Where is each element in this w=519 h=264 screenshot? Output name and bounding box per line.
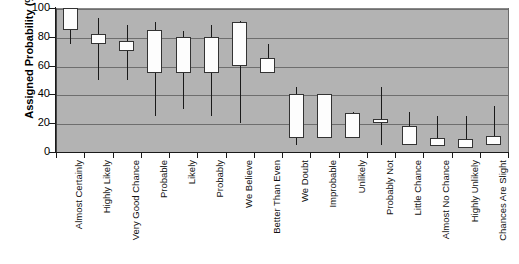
y-tick-mark-40 [49, 94, 55, 95]
x-tick-mark [56, 153, 57, 158]
y-tick-mark-60 [49, 66, 55, 67]
whisker-upper [211, 25, 212, 37]
x-tick-mark [282, 153, 283, 158]
box-rect [373, 119, 388, 123]
y-tick-mark-20 [49, 123, 55, 124]
x-category-label: Highly Likely [102, 160, 112, 213]
box-rect [119, 41, 134, 51]
x-category-label: Almost Certainly [74, 160, 84, 229]
box-rect [402, 126, 417, 145]
box-plot-chart: Assigned Probability (%) 020406080100 Al… [0, 0, 519, 264]
x-category-label: Little Chance [413, 160, 423, 215]
y-tick-label-40: 40 [24, 88, 50, 99]
box-rect [232, 22, 247, 65]
whisker-upper [494, 106, 495, 136]
x-tick-mark [367, 153, 368, 158]
whisker-lower [70, 30, 71, 44]
gridline-100 [57, 9, 509, 10]
box-rect [204, 37, 219, 73]
box-rect [486, 136, 501, 145]
x-category-label: We Doubt [300, 160, 310, 202]
box-rect [289, 94, 304, 137]
x-axis-line [49, 152, 509, 153]
whisker-lower [98, 44, 99, 80]
x-tick-mark [480, 153, 481, 158]
box-rect [147, 30, 162, 73]
whisker-lower [183, 73, 184, 109]
whisker-upper [155, 22, 156, 29]
x-tick-mark [169, 153, 170, 158]
x-category-label: Probably [215, 160, 225, 198]
whisker-upper [127, 25, 128, 41]
whisker-lower [296, 138, 297, 145]
y-tick-label-60: 60 [24, 60, 50, 71]
y-axis-line [55, 7, 56, 153]
x-tick-mark [254, 153, 255, 158]
x-tick-mark [423, 153, 424, 158]
x-category-label: Better Than Even [272, 160, 282, 234]
y-tick-label-80: 80 [24, 31, 50, 42]
x-tick-mark [339, 153, 340, 158]
x-category-label: Probably Not [385, 160, 395, 215]
whisker-lower [240, 66, 241, 124]
x-tick-mark [395, 153, 396, 158]
whisker-lower [127, 51, 128, 80]
box-rect [430, 138, 445, 147]
x-tick-mark [113, 153, 114, 158]
y-axis-tick-labels: 020406080100 [22, 0, 50, 160]
whisker-upper [98, 18, 99, 34]
x-tick-mark [452, 153, 453, 158]
plot-right-border [508, 8, 509, 153]
box-rect [458, 139, 473, 148]
box-rect [176, 37, 191, 73]
whisker-lower [155, 73, 156, 116]
whisker-upper [296, 87, 297, 94]
whisker-upper [409, 112, 410, 126]
x-category-label: Chances Are Slight [498, 160, 508, 241]
y-tick-label-100: 100 [24, 2, 50, 13]
plot-area [56, 8, 509, 153]
x-category-label: Very Good Chance [131, 160, 141, 240]
box-rect [91, 34, 106, 44]
whisker-upper [466, 116, 467, 139]
whisker-upper [268, 44, 269, 58]
x-category-label: Improbable [328, 160, 338, 208]
y-tick-mark-0 [49, 152, 55, 153]
x-tick-mark [508, 153, 509, 158]
whisker-upper [381, 87, 382, 119]
x-category-label: Almost No Chance [441, 160, 451, 239]
x-category-label: Probable [159, 160, 169, 198]
gridline-60 [57, 67, 509, 68]
x-category-label: We Believe [244, 160, 254, 208]
box-rect [260, 58, 275, 72]
x-tick-mark [141, 153, 142, 158]
x-tick-mark [310, 153, 311, 158]
x-category-label: Unlikely [357, 160, 367, 193]
y-tick-mark-80 [49, 37, 55, 38]
x-category-label: Highly Unlikely [470, 160, 480, 222]
whisker-lower [381, 123, 382, 145]
y-tick-label-0: 0 [24, 146, 50, 157]
gridline-80 [57, 38, 509, 39]
x-tick-mark [84, 153, 85, 158]
gridline-40 [57, 95, 509, 96]
y-tick-mark-100 [49, 8, 55, 9]
box-rect [345, 113, 360, 137]
gridline-20 [57, 124, 509, 125]
box-rect [63, 8, 78, 30]
y-tick-label-20: 20 [24, 117, 50, 128]
x-tick-mark [197, 153, 198, 158]
whisker-lower [211, 73, 212, 116]
x-category-label: Likely [187, 160, 197, 184]
whisker-upper [437, 116, 438, 138]
box-rect [317, 94, 332, 137]
x-tick-mark [226, 153, 227, 158]
